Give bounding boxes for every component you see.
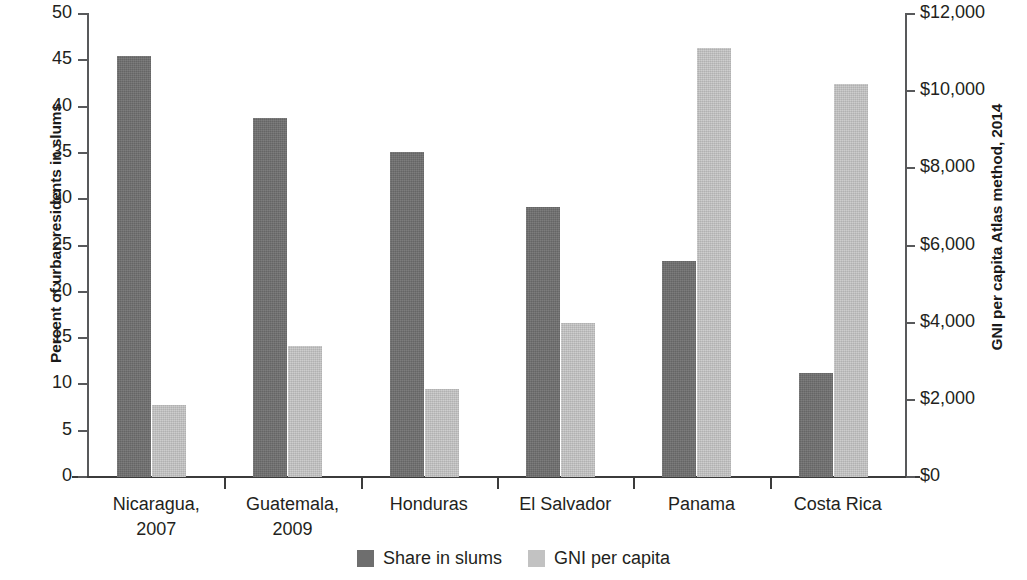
y-tick-left xyxy=(78,291,87,293)
y-axis-title-right: GNI per capita Atlas method, 2014 xyxy=(988,0,1006,462)
y-tick-left xyxy=(78,245,87,247)
bar-gni-per-capita xyxy=(697,48,731,477)
bar-gni-per-capita xyxy=(561,323,595,477)
y-tick-right xyxy=(906,322,915,324)
y-tick-left xyxy=(78,337,87,339)
legend-swatch-slums xyxy=(357,550,374,567)
y-tick-left xyxy=(78,106,87,108)
y-tick-label-left: 35 xyxy=(52,141,72,162)
y-tick-left xyxy=(78,13,87,15)
chart-legend: Share in slumsGNI per capita xyxy=(0,548,1027,569)
legend-swatch-gni xyxy=(528,550,545,567)
y-tick-left xyxy=(78,59,87,61)
bar-share-in-slums xyxy=(799,373,833,477)
y-tick-label-left: 40 xyxy=(52,95,72,116)
y-tick-label-left: 0 xyxy=(62,465,72,486)
y-tick-label-right: $6,000 xyxy=(920,234,975,255)
x-axis-separator xyxy=(633,478,635,489)
y-tick-label-right: $12,000 xyxy=(920,2,985,23)
y-tick-right xyxy=(906,90,915,92)
plot-area xyxy=(88,14,906,477)
y-tick-label-left: 15 xyxy=(52,326,72,347)
y-tick-label-right: $10,000 xyxy=(920,79,985,100)
x-axis-separator xyxy=(224,478,226,489)
bar-gni-per-capita xyxy=(834,84,868,477)
x-axis-separator xyxy=(770,478,772,489)
x-axis-label: Panama xyxy=(633,492,769,517)
y-tick-label-left: 25 xyxy=(52,234,72,255)
y-tick-left xyxy=(78,198,87,200)
y-tick-right xyxy=(906,399,915,401)
y-tick-label-left: 45 xyxy=(52,48,72,69)
y-tick-label-left: 30 xyxy=(52,187,72,208)
bar-gni-per-capita xyxy=(288,346,322,477)
x-axis-label: Guatemala, 2009 xyxy=(224,492,360,542)
x-axis-label: Costa Rica xyxy=(770,492,906,517)
y-tick-label-left: 5 xyxy=(62,419,72,440)
bar-gni-per-capita xyxy=(152,405,186,477)
legend-item: GNI per capita xyxy=(528,548,670,569)
x-axis-separator xyxy=(361,478,363,489)
y-tick-left xyxy=(78,152,87,154)
bar-share-in-slums xyxy=(662,261,696,477)
y-tick-label-right: $0 xyxy=(920,465,940,486)
y-tick-label-left: 20 xyxy=(52,280,72,301)
x-axis-label: Honduras xyxy=(361,492,497,517)
y-tick-right xyxy=(906,13,915,15)
y-tick-label-right: $4,000 xyxy=(920,311,975,332)
y-tick-label-right: $8,000 xyxy=(920,156,975,177)
y-tick-right xyxy=(906,245,915,247)
x-axis-label: El Salvador xyxy=(497,492,633,517)
chart-figure: Percent of urban residents in slums GNI … xyxy=(0,0,1027,580)
y-tick-right xyxy=(906,167,915,169)
x-axis-separator xyxy=(497,478,499,489)
legend-label: Share in slums xyxy=(383,548,502,569)
y-tick-left xyxy=(78,383,87,385)
bar-share-in-slums xyxy=(390,152,424,477)
legend-label: GNI per capita xyxy=(554,548,670,569)
legend-item: Share in slums xyxy=(357,548,502,569)
x-axis-label: Nicaragua, 2007 xyxy=(88,492,224,542)
y-tick-left xyxy=(78,430,87,432)
bar-share-in-slums xyxy=(526,207,560,477)
y-tick-label-right: $2,000 xyxy=(920,388,975,409)
y-tick-label-left: 10 xyxy=(52,372,72,393)
bar-share-in-slums xyxy=(253,118,287,477)
bar-share-in-slums xyxy=(117,56,151,477)
y-tick-left xyxy=(78,476,87,478)
y-tick-label-left: 50 xyxy=(52,2,72,23)
bar-gni-per-capita xyxy=(425,389,459,477)
y-tick-right xyxy=(906,476,915,478)
